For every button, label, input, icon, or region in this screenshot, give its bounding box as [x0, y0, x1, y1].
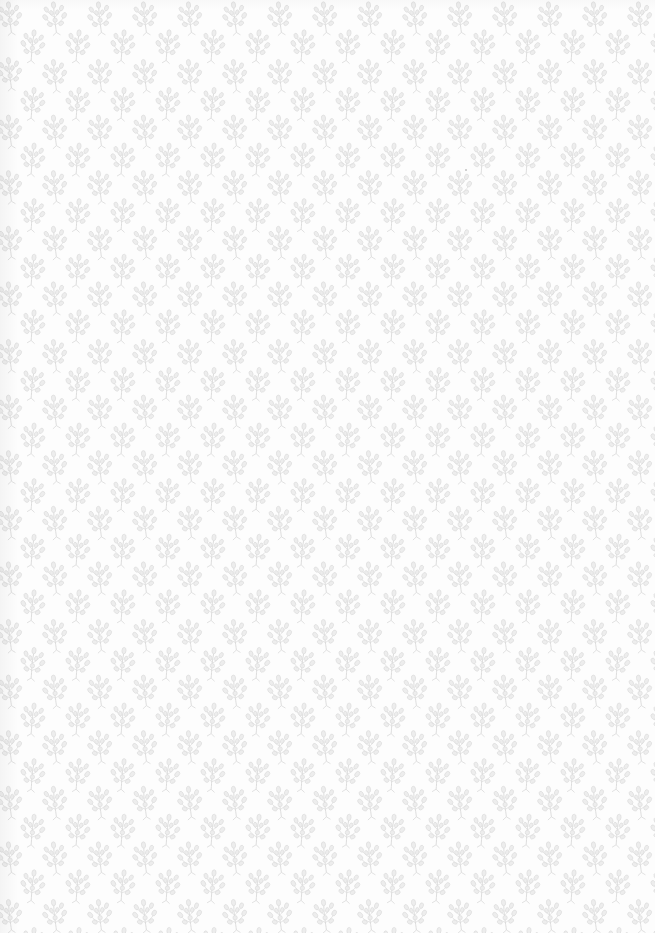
patterned-paper-background: .stem{stroke:#d9d9d9;}.leaf{fill:#ededed…	[0, 0, 655, 933]
leaf-sprig-pattern: .stem{stroke:#d9d9d9;}.leaf{fill:#ededed…	[0, 0, 655, 933]
